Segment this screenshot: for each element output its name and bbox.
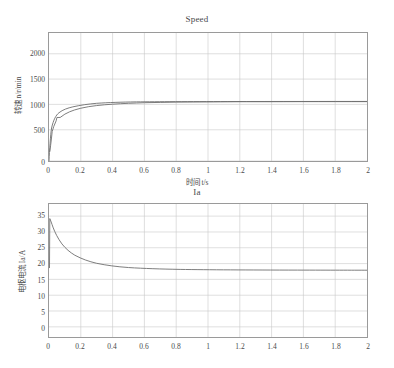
x-tick: 0.6 (139, 342, 148, 351)
current-chart-title: Ia (0, 187, 394, 197)
x-tick: 1.8 (331, 342, 340, 351)
x-tick: 0 (46, 166, 50, 175)
x-tick: 1 (206, 166, 210, 175)
x-tick: 0.8 (171, 342, 180, 351)
current-plot-area (48, 203, 368, 338)
x-tick: 0 (46, 342, 50, 351)
current-y-axis-label: 电枢电流 Ia/A (16, 232, 27, 312)
x-tick: 1.6 (299, 342, 308, 351)
speed-plot-svg (49, 33, 367, 161)
x-tick: 1.2 (235, 342, 244, 351)
x-tick: 1.8 (331, 166, 340, 175)
y-tick: 500 (34, 126, 45, 135)
current-figure: Ia 0 5 10 15 20 25 30 35 电枢电流 Ia/A (0, 186, 394, 368)
x-tick: 0.4 (107, 166, 116, 175)
y-tick: 5 (41, 307, 45, 316)
y-tick: 2000 (30, 49, 45, 58)
y-tick: 0 (41, 323, 45, 332)
y-tick: 20 (38, 259, 46, 268)
x-tick: 2 (366, 166, 370, 175)
x-tick: 0.4 (107, 342, 116, 351)
y-tick: 1000 (30, 100, 45, 109)
y-tick: 10 (38, 291, 46, 300)
x-tick: 1.2 (235, 166, 244, 175)
y-tick: 30 (38, 227, 46, 236)
x-tick: 0.2 (75, 342, 84, 351)
x-tick: 1 (206, 342, 210, 351)
speed-figure: Speed 0 500 1000 1500 2000 转速 n/r/min (0, 0, 394, 186)
speed-y-tick-labels: 0 500 1000 1500 2000 (20, 32, 45, 162)
y-tick: 35 (38, 211, 46, 220)
speed-grid-lines (49, 33, 367, 161)
current-plot-svg (49, 204, 367, 337)
x-tick: 0.2 (75, 166, 84, 175)
y-tick: 15 (38, 275, 46, 284)
speed-chart-title: Speed (0, 14, 394, 24)
x-tick: 1.4 (267, 342, 276, 351)
y-tick: 0 (41, 158, 45, 167)
x-tick: 0.8 (171, 166, 180, 175)
current-x-tick-labels: 0 0.2 0.4 0.6 0.8 1 1.2 1.4 1.6 1.8 2 (48, 342, 368, 354)
x-tick: 2 (366, 342, 370, 351)
x-tick: 1.4 (267, 166, 276, 175)
speed-curve (50, 102, 367, 152)
speed-plot-area (48, 32, 368, 162)
y-tick: 1500 (30, 74, 45, 83)
x-tick: 1.6 (299, 166, 308, 175)
speed-y-axis-label: 转速 n/r/min (12, 56, 23, 136)
x-tick: 0.6 (139, 166, 148, 175)
y-tick: 25 (38, 243, 46, 252)
